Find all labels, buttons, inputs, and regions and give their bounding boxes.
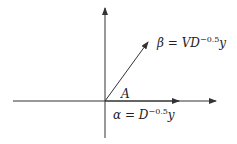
alpha-y: y — [168, 108, 175, 122]
alpha-d: D — [139, 108, 149, 122]
beta-symbol: β — [157, 36, 164, 50]
alpha-label: α = D−0.5y — [113, 108, 175, 121]
alpha-exponent: −0.5 — [148, 107, 167, 116]
beta-v: V — [182, 36, 191, 50]
beta-d: D — [190, 36, 200, 50]
beta-y: y — [219, 36, 226, 50]
alpha-equals: = — [121, 108, 139, 122]
beta-label: β = VD−0.5y — [157, 36, 226, 49]
angle-label-a: A — [121, 88, 130, 100]
alpha-symbol: α — [113, 108, 121, 122]
vector-diagram — [0, 0, 237, 144]
beta-equals: = — [164, 36, 182, 50]
beta-exponent: −0.5 — [200, 35, 219, 44]
